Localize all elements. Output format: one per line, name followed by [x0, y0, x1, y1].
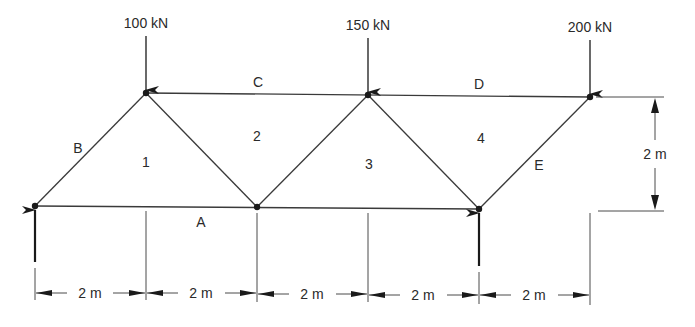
member-label-d: D: [474, 76, 484, 92]
span-dimension-label: 2 m: [189, 285, 212, 301]
member-diagonal-e: [479, 97, 590, 209]
dimension-arrow-up-icon: [651, 98, 659, 113]
member-diagonal-3-4: [368, 95, 479, 209]
member-diagonal-b: [35, 93, 146, 206]
region-label-3: 3: [365, 156, 373, 172]
load-label: 150 kN: [346, 17, 390, 33]
joint-top-2: [365, 92, 371, 98]
joint-bottom-left: [32, 203, 38, 209]
member-label-c: C: [253, 74, 263, 90]
member-diagonal-2-3: [257, 95, 368, 207]
height-dimension: 2 m: [590, 97, 667, 305]
region-label-4: 4: [477, 130, 485, 146]
member-label-b: B: [73, 140, 82, 156]
joint-bottom-mid: [254, 204, 260, 210]
span-dimension-label: 2 m: [522, 287, 545, 303]
member-label-e: E: [534, 157, 543, 173]
truss-diagram: 100 kN 150 kN 200 kN A B C D E 1 2 3 4 2…: [0, 0, 695, 327]
load-arrows: 100 kN 150 kN 200 kN: [124, 15, 612, 94]
truss-members: [35, 93, 590, 209]
load-label: 100 kN: [124, 15, 168, 31]
span-dimension-label: 2 m: [300, 286, 323, 302]
dimension-arrow-down-icon: [651, 195, 659, 210]
span-dimension-label: 2 m: [411, 287, 434, 303]
joint-top-1: [143, 90, 149, 96]
height-dimension-label: 2 m: [643, 146, 666, 162]
span-dimensions: 2 m 2 m 2 m 2 m 2 m: [36, 285, 589, 303]
load-label: 200 kN: [568, 19, 612, 35]
region-label-2: 2: [253, 128, 261, 144]
member-diagonal-1-2: [146, 93, 257, 207]
joint-top-3: [587, 94, 593, 100]
member-label-a: A: [196, 214, 206, 230]
span-dimension-label: 2 m: [78, 285, 101, 301]
joint-bottom-right: [476, 206, 482, 212]
region-label-1: 1: [142, 154, 150, 170]
